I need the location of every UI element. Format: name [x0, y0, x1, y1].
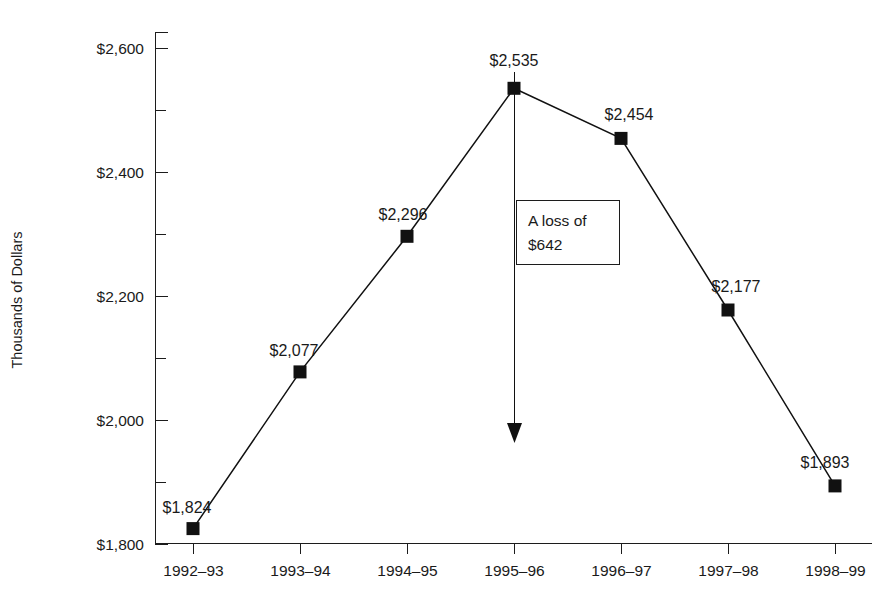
data-point-marker [615, 132, 628, 145]
x-tick-label: 1995–96 [484, 562, 544, 579]
x-tick-label: 1996–97 [591, 562, 651, 579]
data-point-label: $2,177 [712, 278, 761, 295]
y-tick-label: $2,200 [97, 288, 145, 305]
loss-arrow-head [507, 423, 522, 443]
x-tick-label: 1993–94 [270, 562, 331, 579]
data-point-label: $2,077 [270, 342, 319, 359]
data-point-marker [401, 230, 414, 243]
x-tick-label: 1998–99 [805, 562, 865, 579]
x-tick-label: 1994–95 [377, 562, 437, 579]
data-point-label: $2,454 [605, 106, 654, 123]
line-chart: $1,800$2,000$2,200$2,400$2,600 1992–9319… [0, 0, 885, 598]
loss-annotation-line-2: $642 [528, 236, 562, 253]
chart-canvas: $1,800$2,000$2,200$2,400$2,600 1992–9319… [0, 0, 885, 598]
data-point-marker [829, 479, 842, 492]
loss-annotation-line-1: A loss of [528, 212, 587, 229]
axes-group [155, 32, 872, 544]
loss-annotation-box: A loss of $642 [517, 201, 620, 265]
data-point-marker [294, 365, 307, 378]
data-point-label: $1,893 [801, 454, 850, 471]
data-point-label: $2,296 [379, 206, 428, 223]
loss-annotation-border [517, 201, 620, 265]
y-tick-group: $1,800$2,000$2,200$2,400$2,600 [97, 40, 168, 553]
data-label-group: $1,824$2,077$2,296$2,535$2,454$2,177$1,8… [163, 52, 850, 515]
data-point-marker [187, 522, 200, 535]
data-point-label: $2,535 [490, 52, 539, 69]
y-axis-title: Thousands of Dollars [9, 231, 25, 368]
y-tick-label: $2,000 [97, 412, 145, 429]
data-point-marker [722, 304, 735, 317]
x-tick-label: 1997–98 [698, 562, 758, 579]
x-tick-group: 1992–931993–941994–951995–961996–971997–… [163, 544, 865, 580]
y-tick-label: $2,600 [97, 40, 145, 57]
y-tick-label: $2,400 [97, 164, 145, 181]
data-point-label: $1,824 [163, 499, 212, 516]
x-tick-label: 1992–93 [163, 562, 223, 579]
y-tick-label: $1,800 [97, 536, 145, 553]
